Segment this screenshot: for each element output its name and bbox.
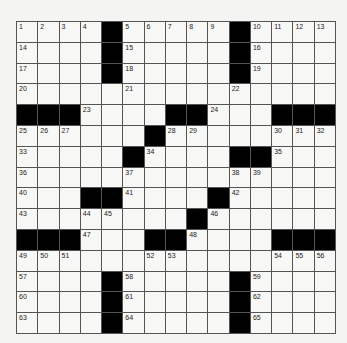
grid-cell[interactable]: 25 bbox=[17, 126, 37, 146]
grid-cell[interactable]: 38 bbox=[230, 168, 250, 188]
grid-cell[interactable] bbox=[145, 209, 165, 229]
grid-cell[interactable] bbox=[272, 313, 292, 333]
grid-cell[interactable] bbox=[272, 272, 292, 292]
grid-cell[interactable]: 15 bbox=[123, 43, 143, 63]
grid-cell[interactable] bbox=[315, 188, 335, 208]
grid-cell[interactable]: 27 bbox=[60, 126, 80, 146]
grid-cell[interactable] bbox=[293, 188, 313, 208]
grid-cell[interactable]: 51 bbox=[60, 251, 80, 271]
grid-cell[interactable] bbox=[208, 168, 228, 188]
grid-cell[interactable] bbox=[102, 230, 122, 250]
grid-cell[interactable] bbox=[38, 188, 58, 208]
grid-cell[interactable]: 23 bbox=[81, 105, 101, 125]
grid-cell[interactable] bbox=[315, 313, 335, 333]
grid-cell[interactable] bbox=[208, 84, 228, 104]
grid-cell[interactable] bbox=[145, 313, 165, 333]
grid-cell[interactable] bbox=[293, 147, 313, 167]
grid-cell[interactable] bbox=[102, 84, 122, 104]
grid-cell[interactable] bbox=[145, 64, 165, 84]
grid-cell[interactable] bbox=[251, 188, 271, 208]
grid-cell[interactable] bbox=[145, 168, 165, 188]
grid-cell[interactable]: 11 bbox=[272, 22, 292, 42]
grid-cell[interactable] bbox=[272, 168, 292, 188]
grid-cell[interactable]: 17 bbox=[17, 64, 37, 84]
grid-cell[interactable]: 1 bbox=[17, 22, 37, 42]
grid-cell[interactable] bbox=[166, 64, 186, 84]
grid-cell[interactable] bbox=[123, 251, 143, 271]
grid-cell[interactable]: 45 bbox=[102, 209, 122, 229]
grid-cell[interactable] bbox=[293, 272, 313, 292]
grid-cell[interactable]: 4 bbox=[81, 22, 101, 42]
grid-cell[interactable] bbox=[293, 64, 313, 84]
grid-cell[interactable]: 56 bbox=[315, 251, 335, 271]
grid-cell[interactable] bbox=[166, 43, 186, 63]
grid-cell[interactable] bbox=[251, 126, 271, 146]
grid-cell[interactable]: 12 bbox=[293, 22, 313, 42]
grid-cell[interactable] bbox=[272, 188, 292, 208]
grid-cell[interactable] bbox=[145, 105, 165, 125]
grid-cell[interactable]: 32 bbox=[315, 126, 335, 146]
grid-cell[interactable] bbox=[166, 188, 186, 208]
grid-cell[interactable] bbox=[187, 292, 207, 312]
grid-cell[interactable]: 40 bbox=[17, 188, 37, 208]
grid-cell[interactable] bbox=[123, 230, 143, 250]
grid-cell[interactable] bbox=[60, 43, 80, 63]
grid-cell[interactable]: 14 bbox=[17, 43, 37, 63]
grid-cell[interactable] bbox=[38, 313, 58, 333]
grid-cell[interactable] bbox=[145, 188, 165, 208]
grid-cell[interactable] bbox=[38, 43, 58, 63]
grid-cell[interactable]: 41 bbox=[123, 188, 143, 208]
grid-cell[interactable] bbox=[38, 84, 58, 104]
grid-cell[interactable] bbox=[315, 272, 335, 292]
grid-cell[interactable]: 3 bbox=[60, 22, 80, 42]
grid-cell[interactable] bbox=[145, 43, 165, 63]
grid-cell[interactable]: 63 bbox=[17, 313, 37, 333]
grid-cell[interactable]: 19 bbox=[251, 64, 271, 84]
grid-cell[interactable] bbox=[251, 251, 271, 271]
grid-cell[interactable] bbox=[251, 209, 271, 229]
grid-cell[interactable] bbox=[187, 313, 207, 333]
grid-cell[interactable]: 34 bbox=[145, 147, 165, 167]
grid-cell[interactable]: 37 bbox=[123, 168, 143, 188]
grid-cell[interactable]: 7 bbox=[166, 22, 186, 42]
grid-cell[interactable]: 64 bbox=[123, 313, 143, 333]
grid-cell[interactable] bbox=[166, 272, 186, 292]
grid-cell[interactable]: 62 bbox=[251, 292, 271, 312]
grid-cell[interactable] bbox=[166, 84, 186, 104]
grid-cell[interactable]: 13 bbox=[315, 22, 335, 42]
grid-cell[interactable] bbox=[60, 209, 80, 229]
grid-cell[interactable] bbox=[38, 147, 58, 167]
grid-cell[interactable] bbox=[166, 292, 186, 312]
grid-cell[interactable] bbox=[208, 313, 228, 333]
grid-cell[interactable] bbox=[293, 43, 313, 63]
grid-cell[interactable] bbox=[60, 84, 80, 104]
grid-cell[interactable] bbox=[60, 188, 80, 208]
grid-cell[interactable]: 48 bbox=[187, 230, 207, 250]
grid-cell[interactable] bbox=[315, 64, 335, 84]
grid-cell[interactable]: 54 bbox=[272, 251, 292, 271]
grid-cell[interactable] bbox=[38, 272, 58, 292]
grid-cell[interactable] bbox=[272, 43, 292, 63]
grid-cell[interactable] bbox=[60, 64, 80, 84]
grid-cell[interactable] bbox=[123, 209, 143, 229]
grid-cell[interactable]: 31 bbox=[293, 126, 313, 146]
grid-cell[interactable] bbox=[166, 209, 186, 229]
grid-cell[interactable]: 28 bbox=[166, 126, 186, 146]
grid-cell[interactable]: 39 bbox=[251, 168, 271, 188]
grid-cell[interactable] bbox=[38, 209, 58, 229]
grid-cell[interactable] bbox=[208, 43, 228, 63]
grid-cell[interactable] bbox=[81, 168, 101, 188]
grid-cell[interactable] bbox=[315, 209, 335, 229]
grid-cell[interactable] bbox=[123, 105, 143, 125]
grid-cell[interactable]: 26 bbox=[38, 126, 58, 146]
grid-cell[interactable] bbox=[81, 84, 101, 104]
grid-cell[interactable]: 49 bbox=[17, 251, 37, 271]
grid-cell[interactable]: 47 bbox=[81, 230, 101, 250]
grid-cell[interactable] bbox=[187, 188, 207, 208]
grid-cell[interactable] bbox=[187, 43, 207, 63]
grid-cell[interactable] bbox=[272, 292, 292, 312]
grid-cell[interactable] bbox=[251, 105, 271, 125]
grid-cell[interactable] bbox=[293, 292, 313, 312]
grid-cell[interactable] bbox=[81, 126, 101, 146]
grid-cell[interactable] bbox=[60, 168, 80, 188]
